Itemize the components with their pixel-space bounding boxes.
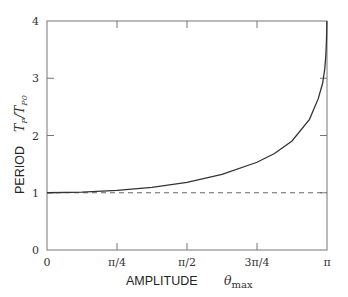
y-tick-label: 3 bbox=[32, 72, 39, 85]
period-curve bbox=[47, 21, 327, 193]
x-tick-label: 3π/4 bbox=[245, 256, 270, 269]
x-tick-label: π/4 bbox=[108, 256, 126, 269]
x-tick-label: 0 bbox=[44, 256, 51, 269]
y-tick-label: 1 bbox=[32, 187, 39, 200]
y-axis-label: PERIOD bbox=[13, 146, 27, 194]
y-axis-symbol: TP/TP0 bbox=[12, 95, 29, 132]
y-tick-label: 4 bbox=[32, 15, 39, 28]
x-tick-label: π/2 bbox=[178, 256, 196, 269]
y-axis-label-group: PERIOD TP/TP0 bbox=[12, 95, 29, 194]
plot-frame bbox=[47, 21, 327, 250]
x-axis-label: AMPLITUDE bbox=[126, 274, 198, 288]
period-amplitude-chart: 0π/4π/23π/4π01234 AMPLITUDE θmax PERIOD … bbox=[0, 0, 348, 297]
axis-tick-labels: 0π/4π/23π/4π01234 bbox=[32, 15, 331, 269]
axis-ticks bbox=[47, 21, 327, 250]
y-tick-label: 2 bbox=[32, 130, 39, 143]
y-tick-label: 0 bbox=[32, 244, 39, 257]
x-tick-label: π bbox=[323, 256, 330, 269]
x-axis-symbol: θmax bbox=[224, 273, 253, 290]
